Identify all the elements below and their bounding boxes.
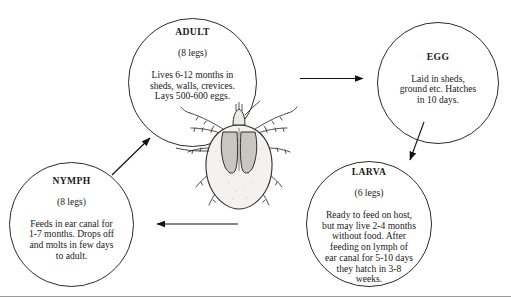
stage-node-nymph[interactable]: NYMPH (8 legs) Feeds in ear canal for 1-…: [9, 162, 134, 287]
stage-text-larva: LARVA (6 legs) Ready to feed on host, bu…: [320, 156, 418, 296]
stage-legs-adult: (8 legs): [150, 48, 235, 59]
stage-title-larva: LARVA: [322, 167, 416, 178]
stage-node-egg[interactable]: EGG Laid in sheds, ground etc. Hatches i…: [377, 22, 499, 144]
tick-life-cycle-diagram: ADULT (8 legs) Lives 6-12 months in shed…: [0, 0, 511, 297]
stage-body-larva: Ready to feed on host, but may live 2-4 …: [322, 210, 416, 285]
stage-body-egg: Laid in sheds, ground etc. Hatches in 10…: [400, 74, 476, 106]
stage-text-nymph: NYMPH (8 legs) Feeds in ear canal for 1-…: [27, 165, 116, 272]
stage-body-adult: Lives 6-12 months in sheds, walls, crevi…: [150, 70, 235, 102]
arrow-nymph-to-adult: [112, 138, 150, 175]
stage-text-egg: EGG Laid in sheds, ground etc. Hatches i…: [398, 41, 478, 116]
stage-title-adult: ADULT: [150, 27, 235, 38]
stage-title-egg: EGG: [400, 52, 476, 63]
stage-legs-larva: (6 legs): [322, 188, 416, 199]
stage-body-nymph: Feeds in ear canal for 1-7 months. Drops…: [29, 219, 114, 262]
stage-legs-nymph: (8 legs): [29, 197, 114, 208]
stage-title-nymph: NYMPH: [29, 176, 114, 187]
stage-text-adult: ADULT (8 legs) Lives 6-12 months in shed…: [148, 16, 237, 113]
tick-illustration: [176, 101, 302, 217]
stage-node-larva[interactable]: LARVA (6 legs) Ready to feed on host, bu…: [306, 161, 432, 287]
